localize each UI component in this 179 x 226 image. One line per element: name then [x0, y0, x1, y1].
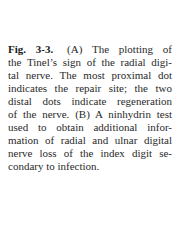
caption-line: of the nerve. (B) A ninhydrin test — [8, 108, 172, 121]
figure-caption: Fig. 3-3. (A) The plotting of the Tinel’… — [8, 43, 172, 173]
caption-line: indicates the repair site; the two — [8, 82, 172, 95]
figure-label: Fig. 3-3. — [8, 43, 53, 55]
caption-line-1: Fig. 3-3. (A) The plotting of — [8, 43, 172, 56]
caption-line: mation of radial and ulnar digital — [8, 134, 172, 147]
caption-line: the Tinel’s sign of the radial digi- — [8, 56, 172, 69]
caption-line: condary to infection. — [8, 160, 172, 173]
caption-line: used to obtain additional infor- — [8, 121, 172, 134]
caption-text: (A) The plotting of — [67, 43, 172, 55]
caption-line: tal nerve. The most proximal dot — [8, 69, 172, 82]
caption-line: distal dots indicate regeneration — [8, 95, 172, 108]
caption-line: nerve loss of the index digit se- — [8, 147, 172, 160]
